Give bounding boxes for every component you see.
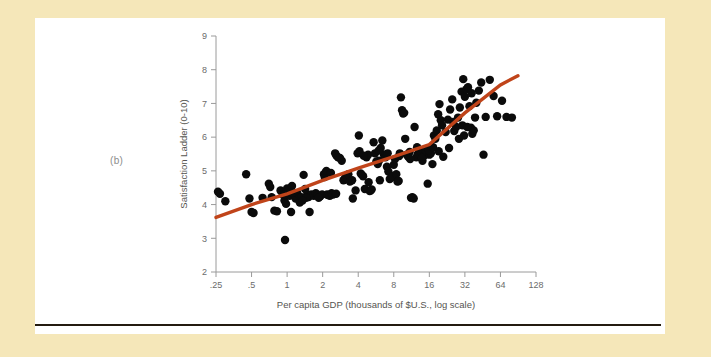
x-tick-label: 128 bbox=[528, 280, 543, 290]
data-point bbox=[351, 186, 359, 194]
data-point bbox=[493, 112, 501, 120]
y-tick-label: 2 bbox=[202, 267, 207, 277]
figure-page: (b) 23456789 .25.51248163264128 Per capi… bbox=[0, 0, 711, 357]
data-point bbox=[282, 200, 290, 208]
data-point bbox=[348, 176, 356, 184]
data-point bbox=[298, 196, 306, 204]
data-point bbox=[245, 194, 253, 202]
data-point bbox=[459, 75, 467, 83]
data-point bbox=[435, 100, 443, 108]
data-point bbox=[481, 113, 489, 121]
y-tick-label: 9 bbox=[202, 31, 207, 41]
data-point bbox=[406, 155, 414, 163]
data-point bbox=[369, 138, 377, 146]
data-point bbox=[281, 236, 289, 244]
data-point bbox=[242, 170, 250, 178]
data-point bbox=[394, 177, 402, 185]
data-point bbox=[410, 194, 418, 202]
data-point bbox=[359, 151, 367, 159]
data-point bbox=[249, 209, 257, 217]
y-tick-label: 4 bbox=[202, 200, 207, 210]
data-point bbox=[397, 93, 405, 101]
data-point bbox=[338, 157, 346, 165]
data-point bbox=[410, 123, 418, 131]
y-tick-label: 5 bbox=[202, 166, 207, 176]
data-point bbox=[498, 97, 506, 105]
data-point bbox=[364, 178, 372, 186]
data-point bbox=[438, 121, 446, 129]
data-point bbox=[463, 123, 471, 131]
data-point bbox=[376, 176, 384, 184]
x-axis: .25.51248163264128 bbox=[210, 272, 544, 290]
data-point bbox=[287, 208, 295, 216]
data-point bbox=[355, 131, 363, 139]
scatter-plot-svg: 23456789 .25.51248163264128 Per capita G… bbox=[170, 22, 550, 312]
x-tick-label: 32 bbox=[460, 280, 470, 290]
data-point bbox=[508, 113, 516, 121]
data-point bbox=[305, 208, 313, 216]
data-point bbox=[418, 154, 426, 162]
data-point bbox=[479, 150, 487, 158]
data-point bbox=[424, 179, 432, 187]
data-point bbox=[486, 76, 494, 84]
x-tick-label: .5 bbox=[248, 280, 256, 290]
x-tick-label: 64 bbox=[495, 280, 505, 290]
x-tick-label: 16 bbox=[424, 280, 434, 290]
x-tick-label: 2 bbox=[320, 280, 325, 290]
data-point bbox=[455, 135, 463, 143]
x-axis-title: Per capita GDP (thousands of $U.S., log … bbox=[277, 299, 475, 310]
data-point bbox=[273, 207, 281, 215]
data-point bbox=[314, 194, 322, 202]
y-tick-label: 6 bbox=[202, 132, 207, 142]
bottom-horizontal-rule bbox=[35, 324, 661, 326]
data-point bbox=[266, 183, 274, 191]
x-tick-label: 1 bbox=[285, 280, 290, 290]
data-point bbox=[378, 136, 386, 144]
data-point bbox=[471, 113, 479, 121]
data-point bbox=[349, 194, 357, 202]
y-axis: 23456789 bbox=[202, 31, 216, 277]
data-points bbox=[214, 75, 516, 244]
data-point bbox=[299, 171, 307, 179]
data-point bbox=[448, 95, 456, 103]
data-point bbox=[332, 190, 340, 198]
data-point bbox=[428, 160, 436, 168]
data-point bbox=[374, 146, 382, 154]
x-tick-label: .25 bbox=[210, 280, 223, 290]
scatter-chart: 23456789 .25.51248163264128 Per capita G… bbox=[170, 22, 550, 312]
data-point bbox=[401, 135, 409, 143]
data-point bbox=[446, 105, 454, 113]
data-point bbox=[400, 109, 408, 117]
y-tick-label: 8 bbox=[202, 65, 207, 75]
data-point bbox=[456, 103, 464, 111]
data-point bbox=[221, 197, 229, 205]
data-point bbox=[445, 144, 453, 152]
y-axis-title: Satisfaction Ladder (0-10) bbox=[178, 99, 189, 208]
y-tick-label: 7 bbox=[202, 99, 207, 109]
data-point bbox=[477, 78, 485, 86]
data-point bbox=[216, 190, 224, 198]
x-tick-label: 8 bbox=[391, 280, 396, 290]
y-tick-label: 3 bbox=[202, 234, 207, 244]
x-tick-label: 4 bbox=[356, 280, 361, 290]
data-point bbox=[467, 89, 475, 97]
data-point bbox=[475, 86, 483, 94]
panel-label: (b) bbox=[110, 155, 123, 166]
